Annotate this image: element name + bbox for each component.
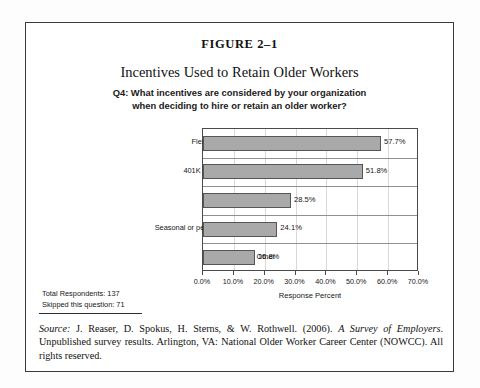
x-tick-mark [264, 271, 265, 275]
x-tick-mark [356, 271, 357, 275]
bar-2 [203, 164, 363, 179]
x-tick-mark [295, 271, 296, 275]
bar-4 [203, 222, 277, 237]
bar-3 [203, 193, 291, 208]
x-tick-mark [233, 271, 234, 275]
figure-subtitle-line-2: when deciding to hire or retain an older… [26, 100, 453, 113]
bar-row [203, 215, 417, 244]
value-label: 16.8% [258, 252, 280, 262]
value-label: 51.8% [366, 166, 388, 176]
figure-frame: FIGURE 2–1 Incentives Used to Retain Old… [25, 22, 454, 372]
skipped-question: Skipped this question: 71 [42, 300, 125, 311]
figure-subtitle: Q4: What incentives are considered by yo… [26, 87, 453, 112]
value-label: 28.5% [294, 195, 316, 205]
value-label: 24.1% [280, 223, 302, 233]
x-tick-label: 70.0% [398, 277, 438, 287]
figure-number: FIGURE 2–1 [26, 37, 453, 52]
source-separator-rule [39, 313, 142, 314]
bar-row [203, 243, 417, 272]
total-respondents: Total Respondents: 137 [42, 289, 125, 300]
x-tick-mark [387, 271, 388, 275]
figure-page: FIGURE 2–1 Incentives Used to Retain Old… [0, 0, 480, 388]
bar-chart: Response Percent Total Respondents: 137 … [31, 123, 449, 323]
x-tick-mark [418, 271, 419, 275]
source-italic-work: A Survey of Employers [338, 323, 440, 334]
bar-1 [203, 136, 381, 151]
x-axis-title: Response Percent [202, 291, 418, 300]
x-tick-mark [202, 271, 203, 275]
value-label: 57.7% [384, 137, 406, 147]
respondent-stats: Total Respondents: 137 Skipped this ques… [42, 289, 125, 310]
figure-title: Incentives Used to Retain Older Workers [26, 64, 453, 81]
x-tick-mark [325, 271, 326, 275]
source-note: Source: J. Reaser, D. Spokus, H. Sterns,… [39, 322, 443, 362]
figure-subtitle-line-1: Q4: What incentives are considered by yo… [26, 87, 453, 100]
bar-5 [203, 250, 255, 265]
source-label: Source: [39, 323, 70, 334]
source-text-before: J. Reaser, D. Spokus, H. Sterns, & W. Ro… [70, 323, 338, 334]
